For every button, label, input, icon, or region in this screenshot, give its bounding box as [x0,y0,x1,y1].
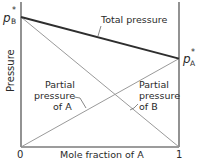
pA-star-superscript: * [191,48,195,57]
partial-a-leader [74,97,86,108]
partial-a-label-3: of A [53,101,72,112]
total-pressure-leader [98,26,101,36]
total-pressure-label: Total pressure [100,14,167,25]
partial-a-label-1: Partial [45,79,75,90]
partial-b-label-2: pressure [139,90,180,101]
raoult-law-diagram: p * B p * A Pressure 0 1 Mole fraction o… [0,0,200,163]
y-axis-label: Pressure [5,49,16,92]
partial-b-leader [130,104,138,110]
partial-b-label-3: of B [139,101,158,112]
partial-a-label-2: pressure [34,90,75,101]
pB-subscript: B [11,17,16,26]
pB-star-superscript: * [12,6,16,15]
x-tick-0: 0 [17,149,23,160]
pA-subscript: A [190,59,196,68]
pB-star-label: p [2,11,11,25]
x-axis-label: Mole fraction of A [60,149,144,160]
partial-b-label-1: Partial [139,79,169,90]
x-tick-1: 1 [176,149,182,160]
